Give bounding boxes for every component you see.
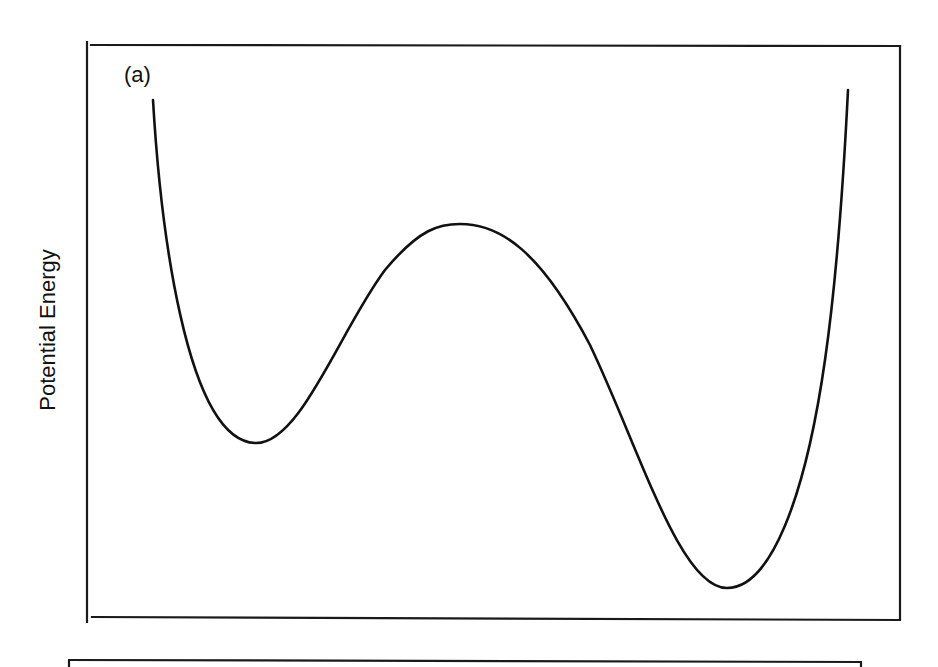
lower-panel-frame	[68, 660, 862, 667]
x-axis-line	[92, 617, 900, 620]
y-axis-label: Potential Energy	[35, 249, 61, 410]
potential-energy-curve	[153, 90, 848, 588]
frame	[87, 42, 900, 622]
lower-frame-top	[68, 660, 862, 662]
panel-label: (a)	[124, 62, 151, 88]
frame-top	[91, 45, 900, 46]
chart-plot	[0, 0, 938, 667]
